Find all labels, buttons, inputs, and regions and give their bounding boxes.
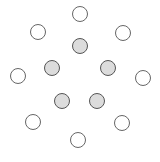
- node-circle-n4[interactable]: [11, 69, 26, 84]
- diagram-canvas: [0, 0, 160, 162]
- node-circle-n3[interactable]: [116, 26, 131, 41]
- node-circle-n7[interactable]: [115, 116, 130, 131]
- node-circle-s4[interactable]: [55, 94, 70, 109]
- node-circle-n1[interactable]: [73, 7, 88, 22]
- node-circle-n8[interactable]: [71, 133, 86, 148]
- node-diagram: [0, 0, 160, 162]
- node-circle-n5[interactable]: [136, 71, 151, 86]
- node-circle-s3[interactable]: [101, 61, 116, 76]
- node-circle-n2[interactable]: [31, 25, 46, 40]
- node-circle-s1[interactable]: [73, 39, 88, 54]
- node-circle-n6[interactable]: [26, 115, 41, 130]
- node-circle-s5[interactable]: [90, 94, 105, 109]
- node-circle-s2[interactable]: [45, 61, 60, 76]
